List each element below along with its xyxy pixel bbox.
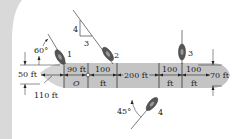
tug2-label: 2: [114, 51, 119, 60]
seg-100c-top: 100: [186, 65, 201, 74]
tug3-label: 3: [188, 49, 193, 58]
tugboat-4: [131, 96, 160, 129]
barge-tugboat-diagram: 50 ft 70 ft 110 ft 90 ft O 100 ft 200 ft…: [0, 0, 237, 139]
seg-100b-bot: ft: [167, 79, 174, 88]
point-o-label: O: [73, 79, 80, 88]
tugboat-2: [73, 10, 116, 64]
seg-100a-top: 100: [95, 65, 110, 74]
tug1-angle-label: 60°: [34, 46, 48, 55]
seg-200-label: 200 ft: [124, 71, 149, 80]
point-o-marker: [86, 73, 90, 77]
tip-length-label: 110 ft: [34, 91, 59, 100]
seg-100b-top: 100: [162, 65, 177, 74]
seg-90-label: 90 ft: [67, 65, 87, 74]
tug4-angle-label: 45°: [117, 107, 131, 116]
tugboat-3: [179, 30, 186, 64]
right-height-label: 70 ft: [210, 71, 230, 80]
seg-100a-bot: ft: [100, 79, 107, 88]
tug4-label: 4: [158, 108, 163, 117]
tug1-label: 1: [67, 50, 72, 59]
slope-rise-label: 4: [73, 25, 78, 34]
left-height-label: 50 ft: [18, 70, 38, 79]
seg-100c-bot: ft: [191, 79, 198, 88]
slope-run-label: 3: [84, 39, 89, 48]
